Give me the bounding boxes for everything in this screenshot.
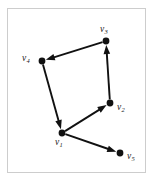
graph-edge-v4-to-v1[interactable] xyxy=(42,61,62,133)
vertex-label-subscript: 3 xyxy=(105,28,108,35)
graph-vertex-label-v4: v4 xyxy=(22,54,29,64)
vertex-label-base: v xyxy=(100,24,104,34)
edge-layer xyxy=(42,41,120,153)
vertex-label-base: v xyxy=(22,53,26,63)
vertex-label-subscript: 4 xyxy=(27,57,30,64)
vertex-label-base: v xyxy=(127,151,131,161)
graph-edge-v3-to-v4[interactable] xyxy=(42,41,106,61)
graph-vertex-label-v1: v1 xyxy=(55,138,62,148)
vertex-label-base: v xyxy=(55,137,59,147)
graph-edge-v1-to-v2[interactable] xyxy=(62,103,110,133)
graph-vertex-v4[interactable] xyxy=(39,58,46,65)
graph-vertex-label-v2: v2 xyxy=(117,103,124,113)
vertex-label-subscript: 1 xyxy=(60,141,63,148)
graph-edge-v1-to-v5[interactable] xyxy=(62,133,120,153)
vertex-label-subscript: 2 xyxy=(122,106,125,113)
graph-vertex-v3[interactable] xyxy=(103,38,110,45)
graph-vertex-v5[interactable] xyxy=(117,150,124,157)
vertex-label-subscript: 5 xyxy=(132,155,135,162)
graph-edge-v2-to-v3[interactable] xyxy=(106,41,110,103)
graph-vertex-label-v3: v3 xyxy=(100,25,107,35)
vertex-label-base: v xyxy=(117,102,121,112)
graph-vertex-v1[interactable] xyxy=(59,130,66,137)
graph-vertex-v2[interactable] xyxy=(107,100,114,107)
graph-vertex-label-v5: v5 xyxy=(127,152,134,162)
figure-root: v1v2v3v4v5 xyxy=(0,0,155,182)
